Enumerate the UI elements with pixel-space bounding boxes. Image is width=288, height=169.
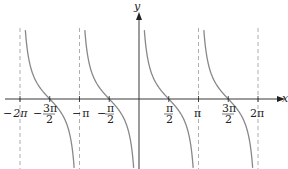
tick-label-pi2-den: 2 [166, 113, 173, 126]
tick-label-negpi2-sign: − [97, 107, 106, 120]
tick-label-neg3pi2-sign: − [33, 107, 42, 120]
tick-label-pi: π [194, 107, 201, 120]
y-axis-label: y [133, 0, 141, 13]
x-axis-label: x [282, 92, 288, 105]
tick-label-negpi2-den: 2 [107, 113, 114, 126]
tick-label-negpi: −π [72, 107, 89, 120]
tick-label-neg3pi2-den: 2 [46, 113, 53, 126]
tick-label-neg2pi: −2π [3, 107, 28, 120]
tick-label-3pi2-den: 2 [225, 113, 232, 126]
x-tick-labels: −2π − 3π 2 −π − π 2 π 2 π 3π 2 2π [3, 102, 264, 126]
cotangent-plot: x y −2π − 3π 2 −π − π 2 π 2 π 3π 2 2π [0, 0, 288, 169]
tick-label-2pi: 2π [250, 107, 264, 120]
y-axis-arrow-icon [136, 12, 142, 20]
